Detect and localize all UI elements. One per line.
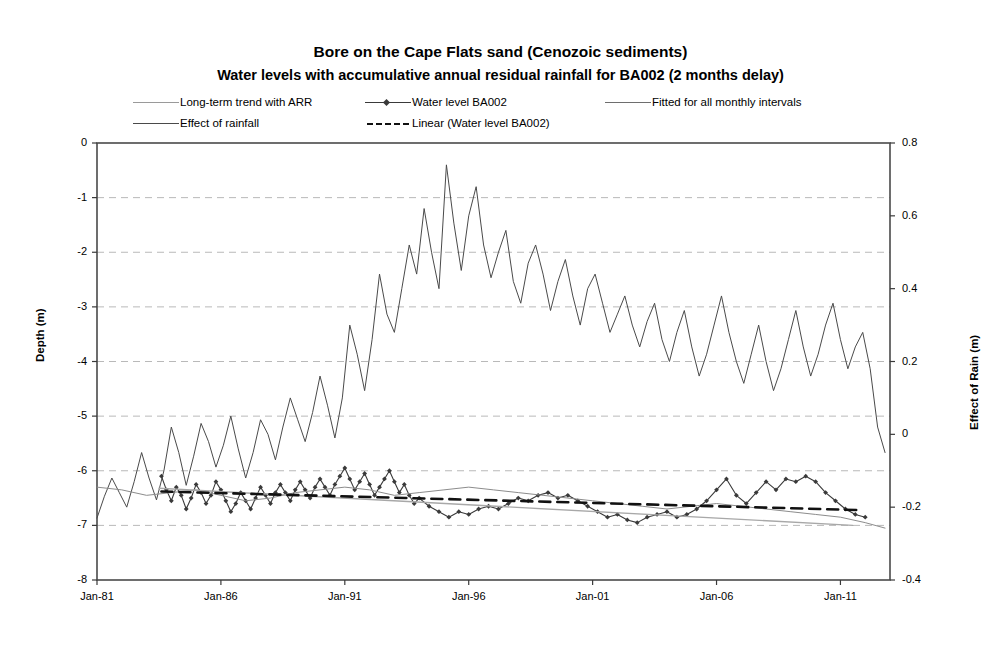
series-marker <box>793 479 798 484</box>
series-marker <box>318 477 323 482</box>
legend-item-long-term-trend[interactable]: Long-term trend with ARR <box>133 93 312 111</box>
legend-swatch-dashed-icon <box>365 117 411 129</box>
y-axis-left-tick-label: -5 <box>39 409 87 421</box>
series-marker <box>446 515 451 520</box>
series-marker <box>189 496 194 501</box>
chart-title-block: Bore on the Cape Flats sand (Cenozoic se… <box>0 42 1001 85</box>
legend-swatch-marker-line-icon <box>365 96 411 108</box>
series-marker <box>258 485 263 490</box>
series-marker <box>278 482 283 487</box>
series-marker <box>546 490 551 495</box>
y-axis-right-tick-label: 0.2 <box>902 355 946 367</box>
y-axis-left-tick-label: -1 <box>39 191 87 203</box>
series-marker <box>248 507 253 512</box>
series-marker <box>476 507 481 512</box>
y-axis-left-tick-label: -2 <box>39 245 87 257</box>
y-axis-left-tick-label: -3 <box>39 300 87 312</box>
x-axis-tick-label: Jan-91 <box>315 590 375 602</box>
series-marker <box>347 477 352 482</box>
series-marker <box>387 468 392 473</box>
y-axis-left-tick-label: 0 <box>39 136 87 148</box>
y-axis-left-tick-label: -8 <box>39 573 87 585</box>
series-marker <box>288 498 293 503</box>
series-marker <box>382 477 387 482</box>
series-marker <box>194 482 199 487</box>
series-marker <box>293 487 298 492</box>
y-axis-right-tick-label: 0.6 <box>902 209 946 221</box>
legend-swatch-line-icon <box>133 117 179 129</box>
x-axis-tick-label: Jan-06 <box>687 590 747 602</box>
chart-title: Bore on the Cape Flats sand (Cenozoic se… <box>0 42 1001 62</box>
series-marker <box>184 507 189 512</box>
legend-label: Fitted for all monthly intervals <box>651 96 802 108</box>
series-marker <box>516 496 521 501</box>
series-marker <box>204 501 209 506</box>
series-marker <box>223 498 228 503</box>
series-marker <box>466 512 471 517</box>
series-marker <box>635 520 640 525</box>
series-marker <box>377 485 382 490</box>
x-axis-tick-label: Jan-86 <box>191 590 251 602</box>
legend-label: Water level BA002 <box>411 96 507 108</box>
series-marker <box>863 515 868 520</box>
legend-row-2: Effect of rainfall Linear (Water level B… <box>97 114 907 132</box>
series-marker <box>337 474 342 479</box>
series-marker <box>437 509 442 514</box>
series-marker <box>496 507 501 512</box>
series-marker <box>357 479 362 484</box>
x-axis-tick-label: Jan-81 <box>67 590 127 602</box>
series-marker <box>313 485 318 490</box>
series-marker <box>605 515 610 520</box>
legend-swatch-line-icon <box>605 96 651 108</box>
x-axis-tick-label: Jan-96 <box>439 590 499 602</box>
series-marker <box>228 509 233 514</box>
y-axis-left-tick-label: -7 <box>39 518 87 530</box>
series-marker <box>665 509 670 514</box>
y-axis-left-tick-label: -4 <box>39 355 87 367</box>
series-marker <box>298 479 303 484</box>
series-marker <box>456 509 461 514</box>
y-axis-right-tick-label: -0.4 <box>902 573 946 585</box>
series-marker <box>625 518 630 523</box>
x-axis-tick-label: Jan-11 <box>810 590 870 602</box>
chart-subtitle: Water levels with accumulative annual re… <box>0 65 1001 85</box>
legend-row-1: Long-term trend with ARR Water level BA0… <box>97 93 907 111</box>
series-marker <box>233 501 238 506</box>
series-marker <box>214 479 219 484</box>
legend-item-effect-of-rainfall[interactable]: Effect of rainfall <box>133 114 259 132</box>
series-marker <box>179 493 184 498</box>
y-axis-right-tick-label: 0.4 <box>902 282 946 294</box>
series-marker <box>169 498 174 503</box>
series-marker <box>803 474 808 479</box>
chart-figure: Bore on the Cape Flats sand (Cenozoic se… <box>0 0 1001 665</box>
series-marker <box>392 479 397 484</box>
series-marker <box>333 482 338 487</box>
y-axis-right-tick-label: 0 <box>902 427 946 439</box>
legend-item-water-level[interactable]: Water level BA002 <box>365 93 507 111</box>
legend-swatch-line-icon <box>133 96 179 108</box>
series-marker <box>585 504 590 509</box>
y-axis-right-title: Effect of Rain (m) <box>968 335 980 430</box>
series-marker <box>342 466 347 471</box>
legend-item-fitted-monthly[interactable]: Fitted for all monthly intervals <box>605 93 802 111</box>
y-axis-left-tick-label: -6 <box>39 464 87 476</box>
series-marker <box>853 512 858 517</box>
series-marker <box>402 482 407 487</box>
series-marker <box>565 493 570 498</box>
series-marker <box>645 515 650 520</box>
series-marker <box>362 471 367 476</box>
series-marker <box>367 482 372 487</box>
legend-label: Long-term trend with ARR <box>179 96 312 108</box>
chart-legend: Long-term trend with ARR Water level BA0… <box>97 93 907 135</box>
x-axis-tick-label: Jan-01 <box>563 590 623 602</box>
y-axis-right-tick-label: 0.8 <box>902 136 946 148</box>
series-marker <box>268 501 273 506</box>
legend-label: Linear (Water level BA002) <box>411 117 550 129</box>
legend-label: Effect of rainfall <box>179 117 259 129</box>
y-axis-right-tick-label: -0.2 <box>902 500 946 512</box>
legend-item-linear-water-level[interactable]: Linear (Water level BA002) <box>365 114 550 132</box>
series-line-0 <box>97 165 885 518</box>
